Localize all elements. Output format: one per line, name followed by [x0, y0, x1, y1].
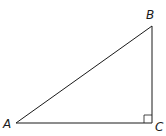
vertex-label-c: C	[155, 120, 164, 134]
triangle-diagram: A B C	[0, 0, 166, 136]
vertex-label-a: A	[2, 117, 11, 131]
triangle-abc	[16, 26, 152, 123]
vertex-label-b: B	[146, 8, 154, 22]
right-angle-marker	[144, 115, 152, 123]
